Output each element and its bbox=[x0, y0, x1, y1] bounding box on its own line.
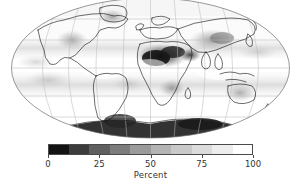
colorbar-swatch-9 bbox=[233, 144, 254, 155]
colorbar-swatch-7 bbox=[192, 144, 213, 155]
figure-root: 0 25 50 75 100 Percent bbox=[0, 0, 301, 184]
colorbar-gradient-bar bbox=[48, 144, 253, 155]
colorbar-swatch-5 bbox=[151, 144, 172, 155]
colorbar-swatch-4 bbox=[130, 144, 151, 155]
global-cloud-cover-map bbox=[0, 0, 301, 140]
colorbar-swatch-3 bbox=[110, 144, 131, 155]
colorbar-swatch-2 bbox=[89, 144, 110, 155]
colorbar-swatch-6 bbox=[171, 144, 192, 155]
colorbar-axis-title: Percent bbox=[0, 169, 301, 182]
map-panel bbox=[0, 0, 301, 140]
colorbar-swatch-1 bbox=[69, 144, 90, 155]
colorbar-swatch-8 bbox=[212, 144, 233, 155]
percent-colorbar: 0 25 50 75 100 Percent bbox=[0, 140, 301, 184]
map-data-layer bbox=[0, 0, 301, 140]
colorbar-swatches bbox=[48, 144, 253, 155]
colorbar-swatch-0 bbox=[48, 144, 69, 155]
